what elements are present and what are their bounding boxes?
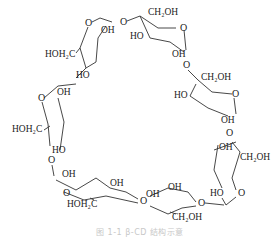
hydroxyl-label: OH [101,25,115,35]
hydroxymethyl-label: CH₂OH [148,7,178,17]
cyclodextrin-structure-diagram: O OH HOH₂C HO O CH₂OH HO O OH O CH₂OH HO… [0,0,280,242]
hydroxyl-label: OH [221,115,235,125]
glucose-unit-top-left: O OH HOH₂C HO [45,17,115,80]
glucose-unit-top: O CH₂OH HO O OH [120,7,187,59]
glucose-unit-right-upper: CH₂OH HO O OH [174,72,239,125]
hydroxyl-label: OH [57,87,71,97]
glycosidic-oxygen: O [120,16,127,27]
figure-caption: 图 1-1 β-CD 结构示意 [0,226,280,237]
hydroxyl-label: OH [172,49,186,59]
hydroxyl-label: HO [210,188,224,198]
glucose-unit-right-lower: OH CH₂OH [214,142,270,190]
hydroxyl-label: OH [110,178,124,188]
glucose-unit-bottom-left: O OH OH OH O HOH₂C [56,169,160,209]
ring-oxygen: O [85,17,92,28]
hydroxyl-label: HO [130,31,144,41]
hydroxyl-label: OH [62,169,76,179]
hydroxymethyl-label: HOH₂C [45,49,75,59]
hydroxyl-label: HO [174,90,188,100]
hydroxyl-label: OH [146,189,160,199]
glycosidic-oxygen: O [48,154,55,165]
glucose-unit-left: O OH HOH₂C HO O [12,84,76,176]
ring-oxygen: O [238,187,245,198]
glucose-unit-bottom-right: HO O O OH CH₂OH [150,182,245,222]
ring-oxygen: O [63,187,70,198]
hydroxymethyl-label: CH₂OH [201,72,231,82]
hydroxyl-label: HO [76,70,90,80]
hydroxymethyl-label: HOH₂C [12,124,42,134]
hydroxymethyl-label: CH₂OH [172,212,202,222]
hydroxymethyl-label: HOH₂C [67,199,97,209]
glycosidic-oxygen: O [183,59,190,70]
hydroxymethyl-label: CH₂OH [240,152,270,162]
glycosidic-oxygen: O [198,197,205,208]
glycosidic-oxygen: O [226,127,233,138]
ring-oxygen: O [180,22,187,33]
ring-oxygen: O [232,88,239,99]
